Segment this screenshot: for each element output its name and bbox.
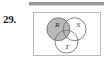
venn-label-S: S <box>77 21 81 29</box>
figure-frame: R S T <box>33 12 101 56</box>
page-top-rule-shadow <box>29 5 104 6</box>
exercise-number: 29. <box>3 13 27 25</box>
venn-label-T: T <box>65 43 70 51</box>
page-fragment: 29. R S <box>0 0 104 64</box>
venn-diagram: R S T <box>34 13 100 55</box>
venn-label-R: R <box>54 21 60 29</box>
